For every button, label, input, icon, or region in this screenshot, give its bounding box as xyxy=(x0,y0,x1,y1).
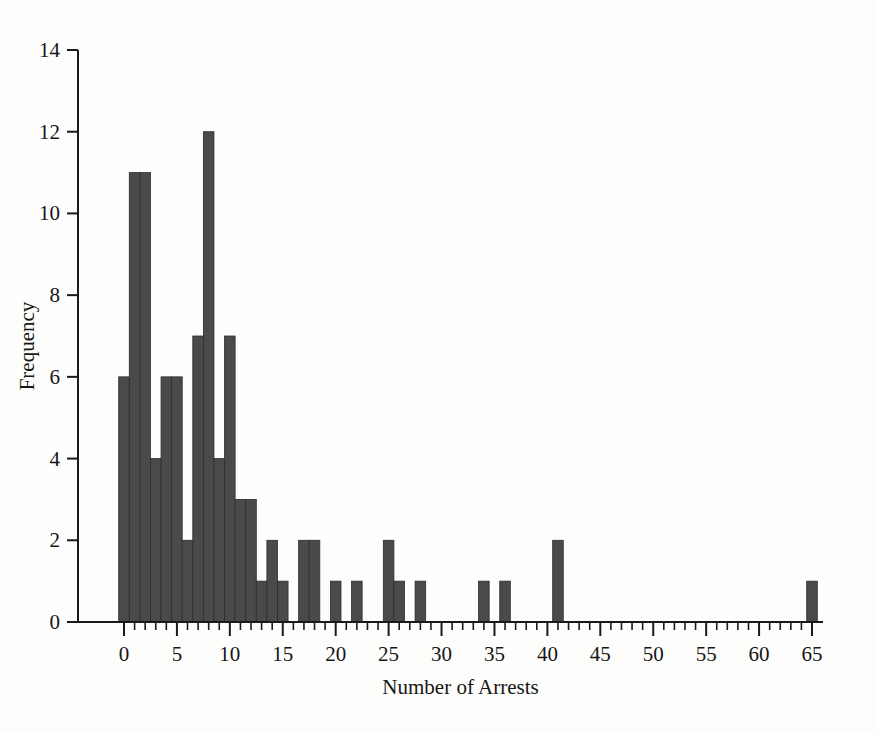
x-tick-label: 5 xyxy=(172,642,183,666)
histogram-bar xyxy=(246,499,257,622)
histogram-bar xyxy=(182,540,193,622)
y-tick-label: 10 xyxy=(39,201,60,225)
histogram-bar xyxy=(225,336,236,622)
histogram-canvas: 0246810121405101520253035404550556065Num… xyxy=(0,0,877,732)
x-tick-label: 55 xyxy=(696,642,717,666)
histogram-bar xyxy=(415,581,426,622)
histogram-bar xyxy=(203,132,214,622)
histogram-bar xyxy=(383,540,394,622)
histogram-bar xyxy=(140,173,151,622)
x-tick-label: 25 xyxy=(378,642,399,666)
x-tick-label: 60 xyxy=(749,642,770,666)
x-tick-label: 35 xyxy=(484,642,505,666)
y-axis-title: Frequency xyxy=(15,301,39,390)
histogram-figure: 0246810121405101520253035404550556065Num… xyxy=(0,0,877,732)
histogram-bar xyxy=(193,336,204,622)
histogram-bar xyxy=(267,540,278,622)
x-tick-label: 30 xyxy=(431,642,452,666)
x-tick-label: 10 xyxy=(219,642,240,666)
x-tick-label: 50 xyxy=(643,642,664,666)
histogram-bar xyxy=(214,459,225,622)
histogram-bar xyxy=(352,581,363,622)
histogram-bar xyxy=(256,581,267,622)
x-tick-label: 20 xyxy=(325,642,346,666)
y-tick-label: 14 xyxy=(39,38,61,62)
histogram-bar xyxy=(129,173,140,622)
histogram-bar xyxy=(330,581,341,622)
y-tick-label: 12 xyxy=(39,120,60,144)
histogram-bar xyxy=(172,377,183,622)
histogram-bar xyxy=(235,499,246,622)
y-tick-label: 4 xyxy=(50,447,61,471)
x-tick-label: 40 xyxy=(537,642,558,666)
y-tick-label: 2 xyxy=(50,528,61,552)
y-tick-label: 0 xyxy=(50,610,61,634)
x-tick-label: 45 xyxy=(590,642,611,666)
histogram-bar xyxy=(150,459,161,622)
histogram-bar xyxy=(309,540,320,622)
y-tick-label: 8 xyxy=(50,283,61,307)
x-tick-label: 15 xyxy=(272,642,293,666)
histogram-bar xyxy=(161,377,172,622)
histogram-bar xyxy=(394,581,405,622)
histogram-bar xyxy=(277,581,288,622)
histogram-bar xyxy=(479,581,490,622)
histogram-bar xyxy=(119,377,130,622)
y-tick-label: 6 xyxy=(50,365,61,389)
x-axis-title: Number of Arrests xyxy=(382,675,538,699)
x-tick-label: 0 xyxy=(119,642,130,666)
histogram-bar xyxy=(553,540,564,622)
histogram-bar xyxy=(807,581,818,622)
histogram-bar xyxy=(299,540,310,622)
histogram-bar xyxy=(500,581,511,622)
x-tick-label: 65 xyxy=(802,642,823,666)
